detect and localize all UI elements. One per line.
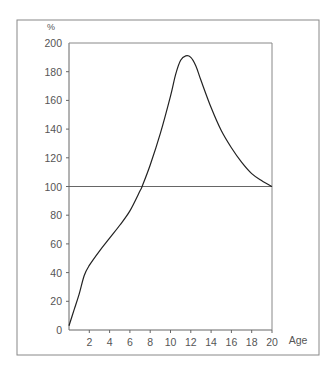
y-axis-ticks: 020406080100120140160180200 (44, 37, 69, 336)
x-tick-label: 18 (246, 336, 258, 348)
x-axis-ticks: 2468101214161820 (86, 330, 278, 348)
outer-frame (17, 20, 319, 355)
y-tick-label: 140 (44, 123, 62, 135)
x-tick-label: 2 (86, 336, 92, 348)
x-tick-label: 14 (205, 336, 217, 348)
x-axis-label: Age (289, 334, 308, 346)
x-tick-label: 16 (226, 336, 238, 348)
y-tick-label: 0 (56, 324, 62, 336)
y-tick-label: 100 (44, 181, 62, 193)
y-tick-label: 80 (50, 209, 62, 221)
y-tick-label: 20 (50, 295, 62, 307)
y-axis-label: % (47, 22, 55, 32)
y-tick-label: 200 (44, 37, 62, 49)
x-tick-label: 12 (185, 336, 197, 348)
y-tick-label: 180 (44, 66, 62, 78)
x-tick-label: 20 (266, 336, 278, 348)
chart: 020406080100120140160180200 246810121416… (0, 0, 336, 370)
y-tick-label: 40 (50, 267, 62, 279)
y-tick-label: 160 (44, 94, 62, 106)
y-tick-label: 60 (50, 238, 62, 250)
y-tick-label: 120 (44, 152, 62, 164)
x-tick-label: 4 (107, 336, 113, 348)
x-tick-label: 10 (165, 336, 177, 348)
data-line (69, 56, 272, 326)
x-tick-label: 6 (127, 336, 133, 348)
x-tick-label: 8 (147, 336, 153, 348)
